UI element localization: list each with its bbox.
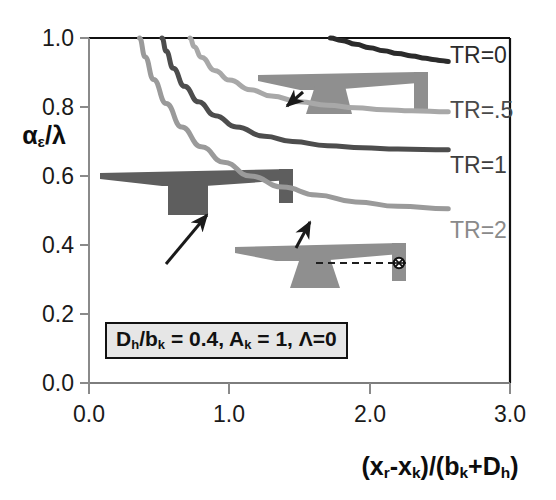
aircraft-planform-target-marker-icon <box>235 243 406 288</box>
ytick-label-08: 0.8 <box>12 94 74 121</box>
y-axis-ticks <box>80 38 89 383</box>
xtick-label-20: 2.0 <box>335 401 405 428</box>
y-axis-label: αε/λ <box>6 121 82 151</box>
xtick-label-30: 3.0 <box>475 401 545 428</box>
y-axis-label-lambda: /λ <box>45 121 66 149</box>
ytick-label-00: 0.0 <box>12 370 74 397</box>
arrow-to-tr1 <box>166 215 207 264</box>
ytick-label-02: 0.2 <box>12 301 74 328</box>
annot-sub-k2: k <box>244 337 251 352</box>
annot-sub-k1: k <box>158 337 165 352</box>
x-axis-sub-h: h <box>501 464 510 481</box>
x-axis-sub-k1: k <box>412 464 421 481</box>
ytick-label-1: 1.0 <box>12 25 74 52</box>
annot-sub-h: h <box>131 337 139 352</box>
y-axis-label-alpha: α <box>22 121 37 149</box>
aircraft-planform-rect-tail-icon <box>100 169 293 215</box>
x-axis-ticks <box>89 383 510 394</box>
curve-tr-0 <box>330 38 448 61</box>
series-label-tr05: TR=.5 <box>450 97 513 124</box>
parameter-annotation-box: Dh/bk = 0.4, Ak = 1, Λ=0 <box>105 322 348 359</box>
series-label-tr0: TR=0 <box>450 42 507 69</box>
x-axis-label: (xr-xk)/(bk+Dh) <box>330 452 550 482</box>
chart-figure: 1.0 0.8 0.6 0.4 0.2 0.0 0.0 1.0 2.0 3.0 … <box>0 0 556 500</box>
x-axis-sub-r: r <box>384 464 390 481</box>
arrow-to-tr2 <box>296 222 310 248</box>
series-label-tr1: TR=1 <box>450 152 507 179</box>
x-axis-sub-k2: k <box>459 464 468 481</box>
xtick-label-00: 0.0 <box>54 401 124 428</box>
xtick-label-10: 1.0 <box>194 401 264 428</box>
ytick-label-06: 0.6 <box>12 163 74 190</box>
series-label-tr2: TR=2 <box>450 217 507 244</box>
y-axis-label-epsilon: ε <box>38 133 45 150</box>
ytick-label-04: 0.4 <box>12 232 74 259</box>
